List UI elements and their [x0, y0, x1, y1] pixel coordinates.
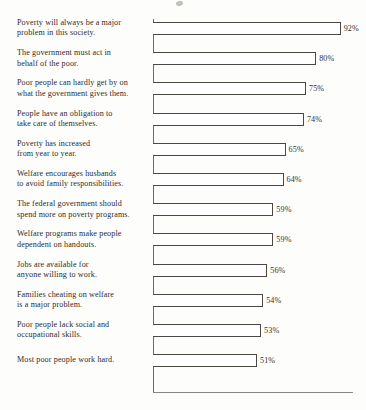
bar [153, 52, 316, 65]
bar-value-label: 74% [307, 114, 322, 125]
bar-value-label: 65% [289, 144, 304, 155]
bar-category-label-line: spend more on poverty programs. [17, 210, 150, 221]
bar-track [153, 294, 263, 307]
bar [153, 203, 273, 216]
bar-category-label: Poverty will always be a majorproblem in… [17, 18, 150, 39]
bar-value-label: 75% [309, 83, 324, 94]
bar [153, 22, 341, 35]
bar-value-label: 51% [260, 355, 275, 366]
bar-category-label-line: anyone willing to work. [17, 270, 150, 281]
bar-category-label: Poverty has increasedfrom year to year. [17, 139, 150, 160]
bar [153, 264, 267, 277]
bar-category-label-line: The government must act in [17, 48, 150, 59]
bar-category-label: Jobs are available foranyone willing to … [17, 260, 150, 281]
bar-category-label: People have an obligation totake care of… [17, 109, 150, 130]
bar-category-label: Welfare programs make peopledependent on… [17, 229, 150, 250]
bar-category-label-line: People have an obligation to [17, 109, 150, 120]
bar-track [153, 143, 286, 156]
bar-category-label-line: Welfare programs make people [17, 229, 150, 240]
bar-category-label-line: behalf of the poor. [17, 59, 150, 70]
bar-category-label: Most poor people work hard. [17, 355, 150, 366]
bar-category-label-line: Most poor people work hard. [17, 355, 150, 366]
bar-value-label: 54% [266, 295, 281, 306]
bar-category-label: Welfare encourages husbandsto avoid fami… [17, 169, 150, 190]
horizontal-bar-chart: Poverty will always be a majorproblem in… [0, 0, 366, 410]
bar-category-label-line: what the government gives them. [17, 89, 150, 100]
bar-category-label-line: take care of themselves. [17, 119, 150, 130]
bar [153, 354, 257, 367]
bar-category-label: The federal government shouldspend more … [17, 199, 150, 220]
bar-track [153, 354, 257, 367]
bar [153, 173, 284, 186]
bar-category-label-line: Poor people can hardly get by on [17, 78, 150, 89]
bar-category-label-line: from year to year. [17, 149, 150, 160]
bar-track [153, 52, 316, 65]
bar-category-label-line: is a major problem. [17, 300, 150, 311]
bar-category-label: Poor people can hardly get by onwhat the… [17, 78, 150, 99]
bar-track [153, 173, 284, 186]
bar-value-label: 80% [319, 53, 334, 64]
bar-category-label: Families cheating on welfareis a major p… [17, 290, 150, 311]
bar-category-label-line: dependent on handouts. [17, 240, 150, 251]
bar-track [153, 233, 273, 246]
bar-value-label: 56% [270, 265, 285, 276]
bar-value-label: 59% [276, 204, 291, 215]
bar-track [153, 82, 306, 95]
bar-category-label: The government must act inbehalf of the … [17, 48, 150, 69]
bar-track [153, 22, 341, 35]
bar [153, 113, 304, 126]
bar-category-label-line: Welfare encourages husbands [17, 169, 150, 180]
bar-category-label-line: occupational skills. [17, 330, 150, 341]
bar-category-label-line: Jobs are available for [17, 260, 150, 271]
bar [153, 294, 263, 307]
bar-category-label-line: Families cheating on welfare [17, 290, 150, 301]
bar-category-label-line: The federal government should [17, 199, 150, 210]
bar-category-label-line: problem in this society. [17, 28, 150, 39]
bar-track [153, 113, 304, 126]
bar-category-label-line: to avoid family responsibilities. [17, 179, 150, 190]
bar-track [153, 203, 273, 216]
bar-value-label: 53% [264, 325, 279, 336]
bar-value-label: 59% [276, 234, 291, 245]
bar [153, 82, 306, 95]
bar-track [153, 324, 261, 337]
bar-category-label-line: Poverty will always be a major [17, 18, 150, 29]
chart-page: Poverty will always be a majorproblem in… [0, 0, 366, 410]
bar-track [153, 264, 267, 277]
bar-value-label: 64% [287, 174, 302, 185]
bar [153, 143, 286, 156]
bar [153, 233, 273, 246]
bar [153, 324, 261, 337]
bar-category-label-line: Poverty has increased [17, 139, 150, 150]
bar-value-label: 92% [344, 23, 359, 34]
bar-category-label: Poor people lack social andoccupational … [17, 320, 150, 341]
chart-baseline [153, 392, 353, 393]
bar-category-label-line: Poor people lack social and [17, 320, 150, 331]
